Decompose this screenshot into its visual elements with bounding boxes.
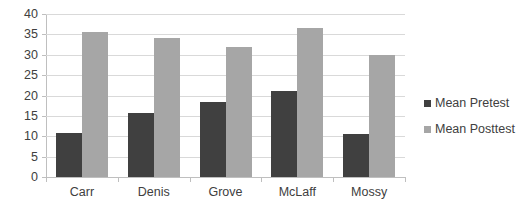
x-axis-tick-3 (261, 177, 262, 182)
bar-group-denis (128, 14, 180, 177)
legend-label-posttest: Mean Posttest (435, 123, 515, 136)
bar-denis-mean-posttest[interactable] (154, 38, 180, 177)
bar-mossy-mean-posttest[interactable] (369, 55, 395, 177)
y-tick-0 (42, 177, 46, 178)
y-tick-label-0: 0 (0, 171, 38, 184)
x-axis-label-denis: Denis (118, 186, 190, 199)
x-axis-tick-5 (405, 177, 406, 182)
chart-legend: Mean Pretest Mean Posttest (424, 90, 529, 142)
bar-carr-mean-posttest[interactable] (82, 32, 108, 177)
bar-grove-mean-posttest[interactable] (226, 47, 252, 177)
bar-denis-mean-pretest[interactable] (128, 113, 154, 177)
y-tick-label-10: 10 (0, 130, 38, 143)
x-axis-tick-2 (190, 177, 191, 182)
y-tick-5 (42, 157, 46, 158)
y-tick-label-15: 15 (0, 110, 38, 123)
legend-swatch-pretest (424, 100, 431, 107)
y-tick-35 (42, 34, 46, 35)
bar-carr-mean-pretest[interactable] (56, 133, 82, 177)
gridline-0 (46, 177, 405, 178)
y-tick-30 (42, 55, 46, 56)
x-axis-tick-1 (118, 177, 119, 182)
y-tick-25 (42, 75, 46, 76)
x-axis-label-carr: Carr (46, 186, 118, 199)
bar-group-grove (200, 14, 252, 177)
x-axis-tick-0 (46, 177, 47, 182)
bar-mclaff-mean-pretest[interactable] (271, 91, 297, 177)
y-tick-label-25: 25 (0, 69, 38, 82)
y-tick-label-30: 30 (0, 49, 38, 62)
y-tick-20 (42, 96, 46, 97)
bar-mossy-mean-pretest[interactable] (343, 134, 369, 177)
bar-grove-mean-pretest[interactable] (200, 102, 226, 177)
legend-label-pretest: Mean Pretest (435, 97, 509, 110)
legend-item-posttest[interactable]: Mean Posttest (424, 116, 529, 142)
y-axis-labels: 4035302520151050 (0, 0, 38, 218)
y-tick-label-35: 35 (0, 28, 38, 41)
bar-group-carr (56, 14, 108, 177)
plot-area (46, 14, 405, 177)
bar-group-mclaff (271, 14, 323, 177)
x-axis-label-mossy: Mossy (333, 186, 405, 199)
grouped-bar-chart: 4035302520151050 CarrDenisGroveMcLaffMos… (0, 0, 531, 218)
x-axis-label-grove: Grove (190, 186, 262, 199)
y-tick-40 (42, 14, 46, 15)
bar-group-mossy (343, 14, 395, 177)
y-tick-10 (42, 136, 46, 137)
y-tick-label-5: 5 (0, 151, 38, 164)
x-axis-label-mclaff: McLaff (261, 186, 333, 199)
y-tick-label-20: 20 (0, 90, 38, 103)
y-tick-15 (42, 116, 46, 117)
x-axis-tick-4 (333, 177, 334, 182)
bar-mclaff-mean-posttest[interactable] (297, 28, 323, 177)
legend-item-pretest[interactable]: Mean Pretest (424, 90, 529, 116)
legend-swatch-posttest (424, 126, 431, 133)
y-tick-label-40: 40 (0, 8, 38, 21)
